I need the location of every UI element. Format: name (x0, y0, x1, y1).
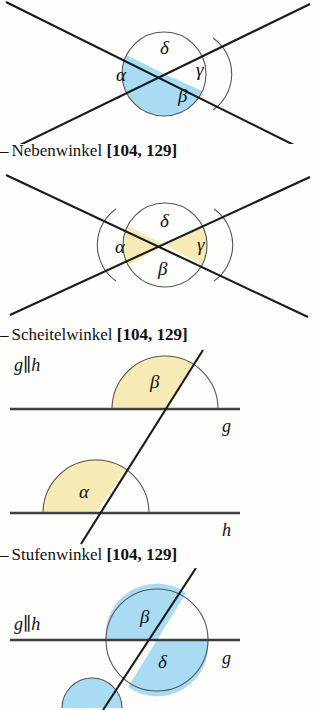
caption-page-refs: [104, 129] (117, 325, 188, 344)
angle-label-gamma: γ (196, 59, 204, 80)
line-label-g: g (222, 416, 231, 436)
angle-label-delta: δ (160, 37, 170, 58)
line-b (18, 4, 310, 144)
angle-label-beta: β (157, 258, 168, 279)
angle-label-beta: β (177, 85, 188, 106)
angle-label-delta: δ (160, 210, 170, 231)
caption-page-refs: [104, 129] (106, 141, 177, 160)
angle-label-alpha: α (79, 481, 90, 502)
angle-label-delta: δ (158, 651, 168, 672)
figure-scheitelwinkel: α β γ δ (0, 165, 314, 323)
figure-page: α β γ δ –Nebenwinkel [104, 129] (0, 0, 314, 710)
parallel-note-upper: g∥h (14, 355, 40, 375)
angle-label-beta: β (149, 371, 160, 392)
caption-nebenwinkel: –Nebenwinkel [104, 129] (0, 141, 314, 161)
parallel-note-upper: g∥h (14, 614, 40, 634)
line-label-h: h (222, 520, 231, 540)
line-label-g: g (222, 648, 231, 668)
figure-nebenwinkel: α β γ δ (0, 0, 314, 140)
angle-label-beta: β (139, 606, 150, 627)
angle-label-gamma: γ (197, 234, 205, 255)
figure-stufenwinkel: g∥h g h β α (0, 348, 314, 548)
caption-term: Scheitelwinkel (12, 325, 113, 344)
caption-dash: – (0, 141, 12, 160)
caption-dash: – (0, 325, 12, 344)
caption-term: Stufenwinkel (12, 545, 103, 564)
caption-term: Nebenwinkel (12, 141, 103, 160)
caption-dash: – (0, 545, 12, 564)
angle-label-alpha: α (115, 236, 126, 257)
caption-stufenwinkel: –Stufenwinkel [104, 129] (0, 545, 314, 565)
figure-wechselwinkel-partial: g∥h g β δ (0, 568, 314, 710)
caption-scheitelwinkel: –Scheitelwinkel [104, 129] (0, 325, 314, 345)
angle-label-alpha: α (116, 64, 127, 85)
caption-page-refs: [104, 129] (106, 545, 177, 564)
